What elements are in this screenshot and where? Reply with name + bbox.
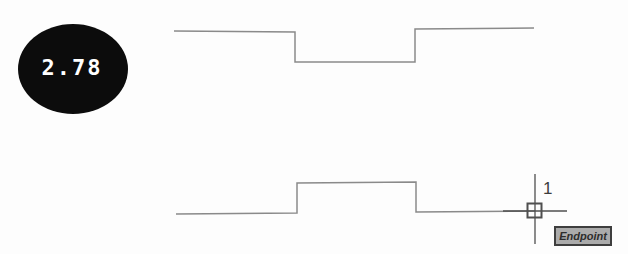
point-number-label: 1 xyxy=(543,179,552,198)
drawing-svg: 2.78 1 xyxy=(0,0,628,254)
balloon-label: 2.78 xyxy=(42,55,103,80)
osnap-tooltip: Endpoint xyxy=(554,226,612,246)
figure-canvas: 2.78 1 Endpoint xyxy=(0,0,628,254)
osnap-tooltip-text: Endpoint xyxy=(559,231,607,242)
bottom-profile-line xyxy=(176,182,535,214)
top-profile-line xyxy=(174,28,534,62)
